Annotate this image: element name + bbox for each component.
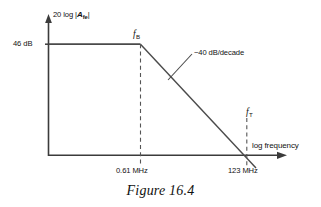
rolloff-slope-line — [141, 44, 257, 168]
ft-subscript: T — [249, 111, 253, 118]
rolloff-slope-label: −40 dB/decade — [194, 49, 244, 57]
y-axis — [45, 14, 52, 156]
y-axis-label: 20 log |Afe| — [53, 11, 90, 19]
gain-value-label: 46 dB — [13, 40, 32, 48]
y-axis-label-subscript: fe — [83, 14, 88, 20]
x-axis-arrowhead — [277, 152, 287, 159]
y-axis-arrowhead — [45, 14, 52, 23]
x-tick-label-breakpoint: 0.61 MHz — [116, 167, 148, 175]
slope-callout-leader-line — [168, 54, 192, 80]
bode-plot-graphic — [0, 0, 321, 207]
y-axis-label-symbol: A — [77, 10, 83, 19]
transition-frequency-label: fT — [246, 108, 252, 118]
x-axis — [49, 152, 288, 159]
figure-container: 20 log |Afe| 46 dB fB fT −40 dB/decade l… — [0, 0, 321, 207]
x-axis-label: log frequency — [252, 142, 299, 150]
y-axis-label-prefix: 20 log | — [53, 10, 77, 19]
fb-subscript: B — [136, 33, 140, 40]
x-tick-label-transition: 123 MHz — [228, 167, 258, 175]
breakpoint-frequency-label: fB — [133, 30, 140, 40]
figure-caption: Figure 16.4 — [0, 183, 321, 199]
